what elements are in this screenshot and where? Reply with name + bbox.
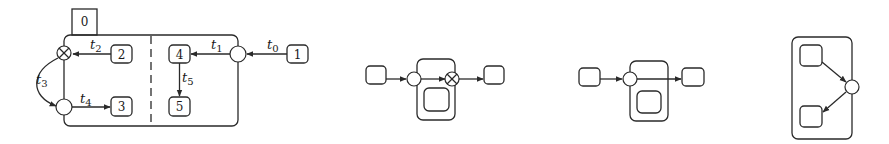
lower-state[interactable] — [800, 106, 822, 127]
state-3[interactable]: 3 — [111, 97, 132, 116]
upper-state[interactable] — [800, 45, 822, 66]
state-0-label: 0 — [81, 15, 89, 29]
source-state[interactable] — [579, 68, 600, 86]
label-t3: t3 — [36, 72, 48, 89]
state-4-label: 4 — [176, 48, 184, 62]
diagram-2 — [366, 59, 504, 120]
diagram-1: 0 2 3 4 5 1 — [36, 9, 308, 126]
diagram-4 — [792, 37, 859, 139]
fork-circle-icon[interactable] — [623, 72, 637, 86]
join-circle-icon[interactable] — [56, 99, 72, 115]
figure-canvas: 0 2 3 4 5 1 — [0, 0, 889, 144]
source-state[interactable] — [366, 66, 386, 84]
state-4[interactable]: 4 — [169, 45, 190, 63]
xor-circle-icon[interactable] — [57, 46, 71, 60]
label-t1: t1 — [211, 37, 223, 54]
fork-circle-icon[interactable] — [230, 46, 246, 62]
state-5[interactable]: 5 — [169, 97, 190, 116]
state-2-label: 2 — [118, 48, 126, 62]
transition-arrow[interactable] — [822, 62, 846, 82]
xor-circle-icon[interactable] — [445, 72, 459, 86]
junction-circle-icon[interactable] — [845, 80, 859, 94]
state-2[interactable]: 2 — [111, 45, 132, 63]
state-1[interactable]: 1 — [287, 45, 308, 63]
inner-state[interactable] — [637, 91, 661, 113]
state-3-label: 3 — [118, 100, 126, 114]
diagram-3 — [579, 61, 704, 121]
target-state[interactable] — [682, 68, 704, 86]
state-5-label: 5 — [176, 100, 184, 114]
label-t2: t2 — [90, 37, 102, 54]
state-1-label: 1 — [294, 48, 302, 62]
transition-arrow[interactable] — [823, 92, 846, 112]
label-t4: t4 — [80, 91, 92, 108]
state-0[interactable]: 0 — [72, 9, 97, 35]
label-t5: t5 — [182, 70, 194, 87]
label-t0: t0 — [267, 37, 279, 54]
fork-circle-icon[interactable] — [407, 72, 421, 86]
inner-state[interactable] — [424, 88, 449, 111]
target-state[interactable] — [484, 66, 504, 84]
